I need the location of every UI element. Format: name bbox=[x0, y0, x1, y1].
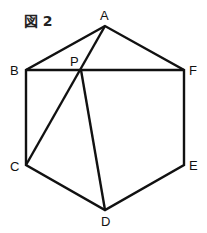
label-e: E bbox=[189, 158, 198, 173]
label-c: C bbox=[10, 159, 19, 174]
figure-title: 図 2 bbox=[24, 13, 53, 29]
hexagon-abcdef bbox=[26, 26, 184, 210]
segment-pd bbox=[81, 70, 105, 210]
label-b: B bbox=[10, 63, 19, 78]
label-d: D bbox=[101, 214, 110, 229]
label-f: F bbox=[189, 63, 197, 78]
figure-canvas: 図 2 A B P F C E D bbox=[0, 0, 207, 233]
label-a: A bbox=[100, 8, 109, 23]
label-p: P bbox=[70, 54, 79, 69]
